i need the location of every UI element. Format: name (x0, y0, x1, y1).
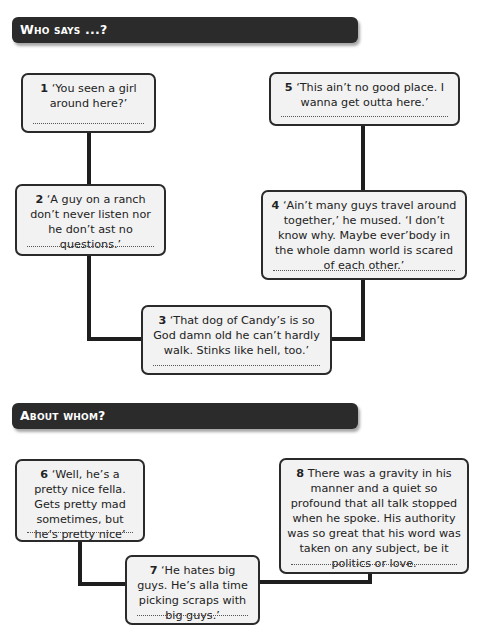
section-banner-who-says: Who says ...? (12, 17, 358, 43)
connector-line (87, 337, 143, 341)
quote-number: 6 (40, 468, 48, 481)
connector-line (361, 278, 365, 341)
quote-number: 8 (296, 467, 304, 480)
quote-box-3: 3 ‘That dog of Candy’s is so God damn ol… (141, 305, 332, 375)
quote-text: There was a gravity in his manner and a … (287, 467, 461, 570)
answer-blank[interactable] (281, 116, 448, 117)
answer-blank[interactable] (27, 246, 154, 247)
quote-text: ‘Well, he’s a pretty nice fella. Gets pr… (34, 468, 126, 541)
section-title: Who says ...? (20, 22, 107, 37)
answer-blank[interactable] (27, 532, 133, 533)
quote-text: ‘Ain’t many guys travel around together,… (275, 199, 456, 272)
section-title: About whom? (20, 408, 106, 423)
quote-number: 4 (272, 199, 280, 212)
section-banner-about-whom: About whom? (12, 403, 358, 429)
quote-box-4: 4 ‘Ain’t many guys travel around togethe… (261, 190, 467, 280)
quote-number: 7 (150, 564, 158, 577)
quote-box-2: 2 ‘A guy on a ranch don’t never listen n… (15, 184, 166, 256)
quote-box-7: 7 ‘He hates big guys. He’s alla time pic… (125, 555, 260, 625)
quote-number: 3 (158, 314, 166, 327)
quote-number: 5 (285, 81, 293, 94)
answer-blank[interactable] (33, 123, 144, 124)
connector-line (361, 124, 365, 190)
quote-box-8: 8 There was a gravity in his manner and … (279, 458, 469, 574)
quote-text: ‘That dog of Candy’s is so God damn old … (153, 314, 320, 357)
quote-box-5: 5 ‘This ain’t no good place. I wanna get… (269, 72, 460, 126)
connector-line (87, 131, 91, 184)
quote-number: 2 (35, 193, 43, 206)
answer-blank[interactable] (291, 564, 457, 565)
quote-text: ‘A guy on a ranch don’t never listen nor… (30, 193, 151, 251)
connector-line (78, 582, 128, 586)
answer-blank[interactable] (137, 615, 248, 616)
quote-text: ‘You seen a girl around here?’ (50, 82, 137, 110)
quote-text: ‘This ain’t no good place. I wanna get o… (296, 81, 444, 109)
answer-blank[interactable] (273, 270, 455, 271)
connector-line (258, 580, 372, 584)
answer-blank[interactable] (153, 365, 320, 366)
quote-box-6: 6 ‘Well, he’s a pretty nice fella. Gets … (15, 459, 145, 542)
connector-line (87, 254, 91, 341)
connector-line (330, 337, 365, 341)
quote-number: 1 (40, 82, 48, 95)
connector-line (78, 540, 82, 586)
quote-box-1: 1 ‘You seen a girl around here?’ (21, 73, 156, 133)
